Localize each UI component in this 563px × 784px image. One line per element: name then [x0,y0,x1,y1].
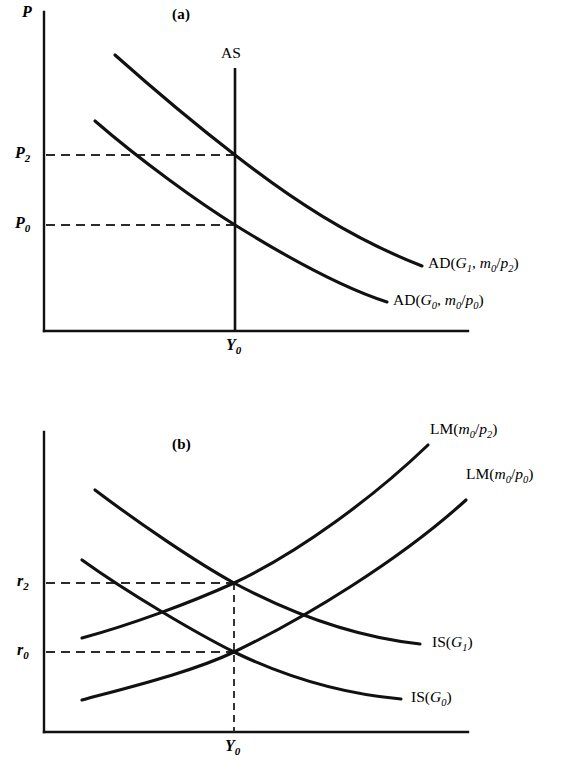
panel-a-group [44,12,468,331]
lm-p0-close: ) [528,465,533,482]
lm-p2-close: ) [492,420,497,437]
panel-a-ad-g0-label: AD(G0, m0/p0) [393,292,484,312]
ad-g1-close: ) [514,254,519,271]
ad-g0-m: m [445,291,456,308]
panel-a-xtick-y0-symbol: Y [226,336,236,353]
ad-g0-prefix: AD( [393,291,421,308]
panel-b-lm-p0-label: LM(m0/p0) [466,466,533,486]
ad-g0-close: ) [479,291,484,308]
panel-b-lm-p2-label: LM(m0/p2) [430,421,497,441]
panel-a-y-axis-label: P [22,4,32,20]
ad-g1-g: G [456,254,467,271]
panel-b-ytick-r0-sub: 0 [23,649,29,661]
figure-canvas [0,0,563,784]
panel-a-ytick-p0-sub: 0 [25,222,31,234]
panel-b-ytick-r2: r2 [17,573,29,592]
economics-figure: (a) P P2 P0 AS Y0 AD(G1, m0/p2) AD(G0, m… [0,0,563,784]
lm-p0-p: p [515,465,523,482]
panel-b-lm-p2-curve [82,445,428,638]
panel-b-group [44,432,468,732]
panel-b-title: (b) [172,437,191,452]
panel-b-ytick-r0: r0 [17,642,29,661]
is-g0-g: G [430,688,441,705]
ad-g1-sep: , [472,254,480,271]
panel-b-is-g0-label: IS(G0) [411,689,452,709]
panel-b-xtick-y0-symbol: Y [225,737,235,754]
panel-a-ytick-p2: P2 [15,145,30,164]
is-g1-prefix: IS( [432,633,451,650]
panel-a-ytick-p2-symbol: P [15,144,25,161]
panel-a-ad-g1-curve [115,55,422,266]
panel-a-as-label: AS [221,45,241,61]
panel-b-is-g1-label: IS(G1) [432,634,473,654]
panel-b-xtick-y0-sub: 0 [235,745,241,757]
ad-g1-m: m [480,254,491,271]
panel-a-xtick-y0-sub: 0 [236,344,242,356]
panel-a-title: (a) [172,7,190,22]
panel-a-ytick-p0-symbol: P [15,214,25,231]
lm-p0-m: m [494,465,505,482]
ad-g1-prefix: AD( [428,254,456,271]
ad-g0-g: G [421,291,432,308]
is-g1-g: G [451,633,462,650]
lm-p2-prefix: LM( [430,420,458,437]
panel-a-ad-g0-curve [95,121,387,302]
is-g0-close: ) [446,688,451,705]
panel-a-xtick-y0: Y0 [226,337,241,356]
panel-b-xtick-y0: Y0 [225,738,240,757]
lm-p2-m: m [458,420,469,437]
lm-p2-p: p [479,420,487,437]
lm-p0-prefix: LM( [466,465,494,482]
is-g1-close: ) [467,633,472,650]
panel-a-ytick-p2-sub: 2 [25,152,31,164]
panel-b-is-g1-curve [95,490,420,644]
panel-b-ytick-r2-sub: 2 [23,580,29,592]
panel-a-ad-g1-label: AD(G1, m0/p2) [428,255,519,275]
ad-g0-sep: , [437,291,445,308]
is-g0-prefix: IS( [411,688,430,705]
panel-a-ytick-p0: P0 [15,215,30,234]
